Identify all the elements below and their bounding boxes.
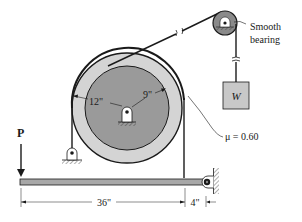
small-pulley bbox=[213, 11, 237, 35]
lever-long-label: 36" bbox=[97, 197, 111, 208]
friction-leader bbox=[188, 96, 223, 137]
lever-pin-wall bbox=[202, 168, 219, 194]
top-rope bbox=[108, 12, 221, 66]
weight-rope bbox=[232, 24, 240, 82]
left-ground-anchor bbox=[62, 148, 82, 164]
friction-label: μ = 0.60 bbox=[225, 131, 259, 142]
bearing-label-line2: bearing bbox=[250, 34, 280, 45]
lever-bar bbox=[20, 179, 208, 185]
outer-radius-label: 12" bbox=[89, 96, 103, 107]
lever-short-label: 4" bbox=[190, 197, 199, 208]
lever-dimensions: 36" 4" bbox=[21, 188, 216, 208]
band-brake-diagram: 12" 9" Smooth bearing W μ = 0.60 P bbox=[0, 0, 302, 222]
bearing-label-line1: Smooth bbox=[250, 21, 281, 32]
inner-radius-label: 9" bbox=[143, 89, 152, 100]
force-arrow bbox=[17, 144, 25, 177]
weight-label: W bbox=[231, 90, 241, 102]
force-label: P bbox=[17, 126, 24, 140]
